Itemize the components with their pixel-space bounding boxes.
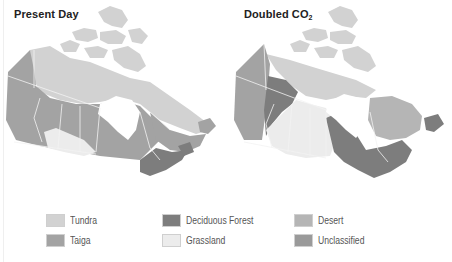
legend-swatch-deciduous-forest: [162, 214, 181, 227]
map-panel-present-day: Present Day: [0, 0, 226, 200]
newfoundland: [424, 114, 444, 132]
legend-item-tundra: Tundra: [46, 212, 103, 228]
legend-item-deciduous-forest: Deciduous Forest: [162, 212, 268, 228]
map-title-text: Present Day: [14, 8, 79, 20]
legend: Tundra Taiga Deciduous Forest Grassland …: [0, 200, 452, 262]
map-title-doubled-co2: Doubled CO2: [244, 8, 313, 20]
map-panel-doubled-co2: Doubled CO2: [226, 0, 452, 200]
legend-label: Taiga: [70, 234, 91, 246]
legend-label: Desert: [318, 214, 343, 226]
legend-label: Unclassified: [318, 234, 364, 246]
legend-item-desert: Desert: [294, 212, 349, 228]
map-title-present-day: Present Day: [14, 8, 79, 20]
legend-swatch-grassland: [162, 234, 181, 247]
map-title-subscript: 2: [309, 14, 313, 21]
legend-item-taiga: Taiga: [46, 232, 95, 248]
legend-item-unclassified: Unclassified: [294, 232, 375, 248]
legend-swatch-unclassified: [294, 234, 313, 247]
canada-biome-map-present: [0, 0, 226, 200]
legend-label: Grassland: [186, 234, 225, 246]
legend-swatch-tundra: [46, 214, 65, 227]
map-title-text: Doubled CO: [244, 8, 309, 20]
legend-swatch-taiga: [46, 234, 65, 247]
legend-label: Tundra: [70, 214, 97, 226]
legend-label: Deciduous Forest: [186, 214, 253, 226]
desert-region: [368, 96, 422, 140]
canada-biome-map-doubled-co2: [226, 0, 452, 200]
legend-swatch-desert: [294, 214, 313, 227]
legend-item-grassland: Grassland: [162, 232, 234, 248]
